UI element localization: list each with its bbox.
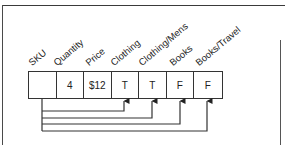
link-books [42, 101, 180, 124]
link-clothing-mens [42, 101, 152, 118]
connector-arrows [0, 0, 285, 145]
link-clothing [42, 101, 124, 111]
